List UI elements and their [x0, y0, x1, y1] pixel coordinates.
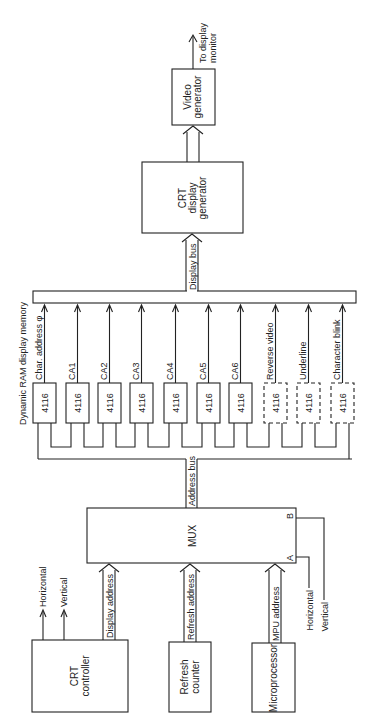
- display-bus-label: Display bus: [188, 243, 198, 290]
- mux-port-a: A: [285, 555, 295, 561]
- ram-chip-part: 4116: [236, 393, 246, 412]
- crt-display-generator-label-3: generator: [197, 176, 208, 219]
- crt-controller-sync-outputs: [40, 610, 67, 640]
- vertical-out-label: Vertical: [59, 577, 69, 607]
- address-connection: [247, 423, 269, 447]
- ram-chip-part: 4116: [73, 393, 83, 412]
- ram-chip-signal: CA5: [198, 362, 208, 380]
- dynamic-ram-title: Dynamic RAM display memory: [18, 301, 28, 425]
- ram-chip-signal: Char. address φ: [34, 315, 44, 380]
- crt-controller-label-2: controller: [80, 655, 91, 697]
- address-connection: [84, 423, 103, 447]
- refresh-counter-label-2: counter: [190, 660, 201, 694]
- memory-chip: 4116Character blink: [315, 305, 354, 459]
- mpu-address-label: MPU address: [271, 586, 281, 641]
- address-connection: [315, 423, 336, 447]
- mux-label: MUX: [187, 525, 198, 548]
- to-display-monitor-label-2: monitor: [208, 33, 218, 63]
- ram-chip-signal: CA1: [67, 362, 77, 380]
- memory-chip: 4116Char. address φ: [33, 305, 56, 459]
- crt-controller-label-1: CRT: [69, 666, 80, 686]
- ram-chip-signal: CA3: [131, 362, 141, 380]
- address-connection: [182, 423, 202, 447]
- memory-chip: 4116Underline: [282, 305, 320, 447]
- video-generator-label-2: generator: [192, 75, 203, 118]
- address-connection: [51, 423, 71, 447]
- memory-chip: 4116CA5: [182, 305, 220, 447]
- ram-chip-part: 4116: [171, 393, 181, 412]
- block-diagram: To display monitor Video generator CRT d…: [0, 0, 367, 716]
- to-display-monitor-label-1: To display: [198, 22, 208, 63]
- ram-chip-signal: CA2: [99, 362, 109, 380]
- address-bus-label: Address bus: [187, 455, 197, 506]
- memory-chips: 4116Char. address φ4116CA14116CA24116CA3…: [33, 305, 354, 459]
- address-connection: [148, 423, 169, 447]
- ram-chip-signal: CA4: [165, 362, 175, 380]
- ram-chip-part: 4116: [137, 393, 147, 412]
- microprocessor-label: Microprocessor: [268, 643, 279, 712]
- mux-select-lines: [296, 518, 324, 600]
- ram-chip-signal: Underline: [298, 341, 308, 380]
- address-connection: [282, 423, 302, 447]
- vertical-in-label: Vertical: [320, 602, 330, 632]
- address-connection: [116, 423, 135, 447]
- address-connection: [215, 423, 234, 447]
- display-address-label: Display address: [105, 573, 115, 638]
- memory-chip: 4116Reverse video: [247, 305, 287, 447]
- ram-chip-part: 4116: [271, 393, 281, 412]
- ram-chip-part: 4116: [204, 393, 214, 412]
- ram-chip-signal: Character blink: [332, 319, 342, 380]
- refresh-counter-label-1: Refresh: [179, 659, 190, 694]
- ram-chip-part: 4116: [105, 393, 115, 412]
- mux-port-b: B: [285, 513, 295, 519]
- generator-to-video-bus: [183, 126, 203, 162]
- ram-chip-part: 4116: [338, 393, 348, 412]
- ram-chip-part: 4116: [40, 393, 50, 412]
- ram-chip-signal: CA6: [230, 362, 240, 380]
- memory-chip: 4116CA1: [51, 305, 89, 447]
- ram-chip-signal: Reverse video: [265, 322, 275, 380]
- horizontal-in-label: Horizontal: [305, 590, 315, 631]
- memory-chip: 4116CA4: [148, 305, 187, 447]
- refresh-address-label: Refresh address: [186, 573, 196, 640]
- horizontal-out-label: Horizontal: [38, 566, 48, 607]
- ram-chip-part: 4116: [304, 393, 314, 412]
